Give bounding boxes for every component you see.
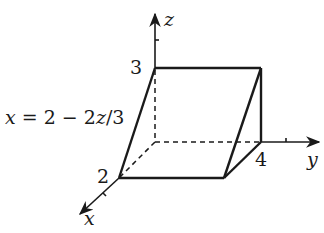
z-axis-label: z [163,8,175,30]
visible-edges [119,68,261,178]
surface-equation-label: x = 2 − 2z/3 [5,106,124,128]
y-intercept-label: 4 [255,148,267,170]
equation-tail: /3 [106,106,125,128]
x-axis-label: x [84,207,95,229]
x-intercept-label: 2 [97,165,109,187]
equation-mid: = 2 − 2 [16,106,96,128]
z-intercept-label: 3 [130,56,142,78]
x-axis-tick [103,193,106,196]
wedge-solid-diagram: z y x 3 4 2 x = 2 − 2z/3 [0,0,324,233]
y-axis-label: y [306,148,318,170]
equation-lhs: x [5,106,16,128]
